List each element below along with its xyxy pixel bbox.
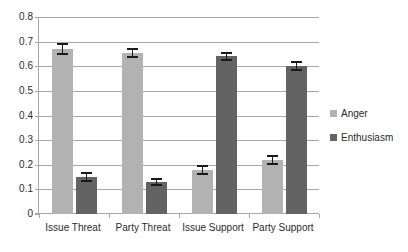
x-axis-label-issue-support: Issue Support: [178, 222, 248, 234]
error-bar-cap-top: [151, 178, 162, 180]
error-bar-cap-top: [81, 172, 92, 174]
error-bar: [57, 43, 68, 55]
gridline: [39, 42, 319, 43]
chart-legend: AngerEnthusiasm: [330, 108, 406, 156]
y-tick-label: 0.7: [4, 37, 33, 47]
plot-area: [38, 17, 319, 214]
gridline: [39, 140, 319, 141]
error-bar: [291, 61, 302, 71]
y-axis: 00.10.20.30.40.50.60.70.8: [4, 0, 33, 252]
error-bar: [267, 155, 278, 165]
bar-anger-party-threat: [122, 53, 143, 214]
x-tick-mark: [179, 214, 180, 218]
error-bar-cap-bottom: [291, 69, 302, 71]
error-bar-cap-top: [221, 52, 232, 54]
error-bar-cap-bottom: [197, 173, 208, 175]
gridline: [39, 91, 319, 92]
error-bar-cap-bottom: [221, 59, 232, 61]
x-tick-mark: [109, 214, 110, 218]
bar-enthusiasm-issue-support: [216, 56, 237, 214]
bar-anger-issue-support: [192, 170, 213, 214]
error-bar-cap-bottom: [81, 180, 92, 182]
y-tick-mark: [35, 189, 39, 190]
y-tick-mark: [35, 140, 39, 141]
gridline: [39, 17, 319, 18]
error-bar-cap-bottom: [151, 184, 162, 186]
error-bar-cap-bottom: [57, 53, 68, 55]
y-tick-mark: [35, 165, 39, 166]
bar-enthusiasm-party-threat: [146, 182, 167, 214]
x-tick-mark: [319, 214, 320, 218]
legend-swatch-icon: [330, 134, 337, 141]
y-tick-mark: [35, 91, 39, 92]
error-bar-cap-top: [291, 61, 302, 63]
error-bar: [127, 48, 138, 58]
error-bar-cap-top: [57, 43, 68, 45]
x-tick-mark: [39, 214, 40, 218]
y-tick-label: 0.1: [4, 184, 33, 194]
y-tick-label: 0.3: [4, 135, 33, 145]
error-bar-cap-top: [127, 48, 138, 50]
error-bar: [151, 178, 162, 187]
bar-chart: 00.10.20.30.40.50.60.70.8 AngerEnthusias…: [0, 0, 408, 252]
bar-anger-party-support: [262, 160, 283, 214]
error-bar: [81, 172, 92, 182]
x-axis-label-party-threat: Party Threat: [108, 222, 178, 234]
y-tick-label: 0.6: [4, 61, 33, 71]
x-axis-label-issue-threat: Issue Threat: [38, 222, 108, 234]
bar-anger-issue-threat: [52, 49, 73, 214]
error-bar: [221, 52, 232, 61]
y-tick-mark: [35, 66, 39, 67]
error-bar-cap-top: [267, 155, 278, 157]
y-tick-mark: [35, 17, 39, 18]
y-tick-label: 0.8: [4, 12, 33, 22]
y-tick-label: 0: [4, 209, 33, 219]
legend-item-enthusiasm[interactable]: Enthusiasm: [330, 132, 406, 143]
error-bar-cap-bottom: [127, 56, 138, 58]
gridline: [39, 116, 319, 117]
x-tick-mark: [249, 214, 250, 218]
x-axis-label-party-support: Party Support: [248, 222, 318, 234]
bar-enthusiasm-issue-threat: [76, 177, 97, 214]
bar-enthusiasm-party-support: [286, 66, 307, 214]
y-tick-label: 0.4: [4, 111, 33, 121]
legend-item-anger[interactable]: Anger: [330, 108, 406, 119]
y-tick-mark: [35, 116, 39, 117]
y-tick-label: 0.2: [4, 160, 33, 170]
error-bar-cap-top: [197, 165, 208, 167]
y-tick-label: 0.5: [4, 86, 33, 96]
legend-swatch-icon: [330, 110, 337, 117]
legend-label: Enthusiasm: [341, 132, 393, 143]
legend-label: Anger: [341, 108, 368, 119]
y-tick-mark: [35, 42, 39, 43]
error-bar-cap-bottom: [267, 163, 278, 165]
error-bar: [197, 165, 208, 175]
gridline: [39, 66, 319, 67]
